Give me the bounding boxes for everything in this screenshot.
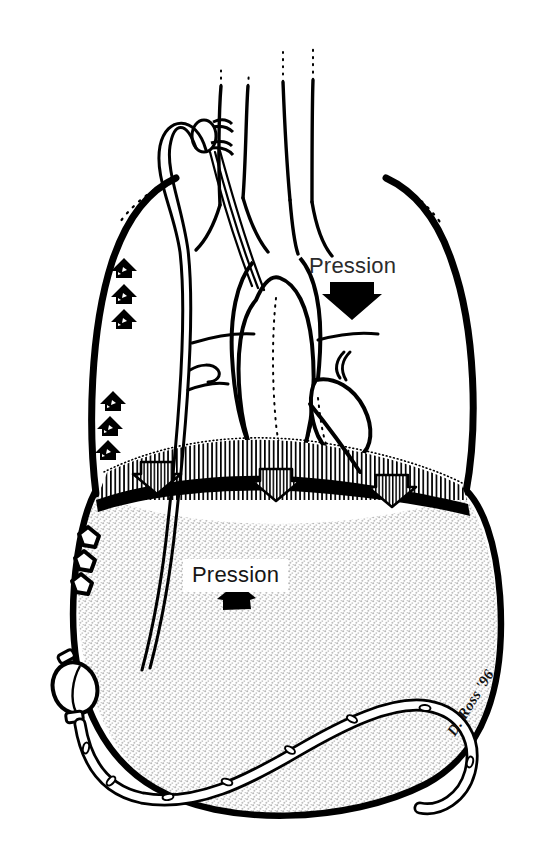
lung-arrow-up <box>95 440 121 460</box>
catheter-knot <box>192 120 233 155</box>
thorax-pressure-arrow-down <box>322 282 382 320</box>
thorax-pressure-label: Pression <box>309 253 396 279</box>
lung-arrow-up <box>97 416 123 436</box>
lung-arrow-up <box>100 391 126 411</box>
anatomical-pressure-diagram: Pression Pression D. Ross '96 <box>0 0 554 847</box>
lung-arrow-up <box>111 309 137 329</box>
abdomen-pressure-label: Pression <box>183 559 288 592</box>
abdomen-region <box>73 490 501 816</box>
great-vessels <box>196 48 332 256</box>
lung-arrow-up <box>111 284 137 304</box>
diagram-canvas <box>0 0 554 847</box>
